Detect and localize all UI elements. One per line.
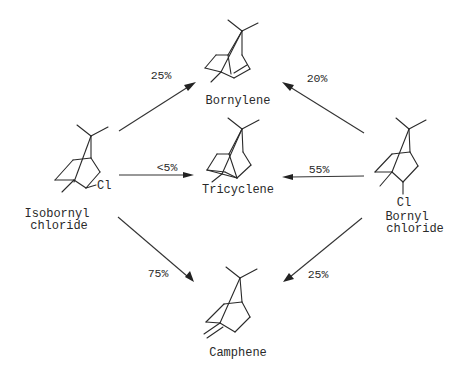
bornyl-chloride-label-line2: chloride [386,222,444,236]
yield-label-bornyl-camphene: 25% [308,268,329,281]
bornylene-structure [205,20,258,82]
isobornyl-chloride-label-line2: chloride [30,219,88,233]
reaction-scheme: Bornylene Tricyclene Cl Isobornyl chlori… [0,0,463,368]
bornyl-chloride-structure [375,118,426,194]
arrow-isobornyl-to-bornylene [119,82,196,131]
camphene-label: Camphene [209,346,267,360]
tricyclene-structure [207,118,259,182]
yield-label-bornyl-tricyclene: 55% [309,163,330,176]
yield-label-iso-tricyclene: <5% [157,161,178,174]
yield-label-bornyl-bornylene: 20% [307,72,328,85]
arrow-bornyl-to-bornylene [282,82,364,133]
isobornyl-cl-label: Cl [97,179,111,193]
camphene-structure [204,267,257,338]
tricyclene-label: Tricyclene [202,183,274,197]
bornylene-label: Bornylene [206,94,271,108]
yield-label-iso-camphene: 75% [148,267,169,280]
yield-label-iso-bornylene: 25% [151,69,172,82]
bornyl-cl-label: Cl [397,196,411,210]
